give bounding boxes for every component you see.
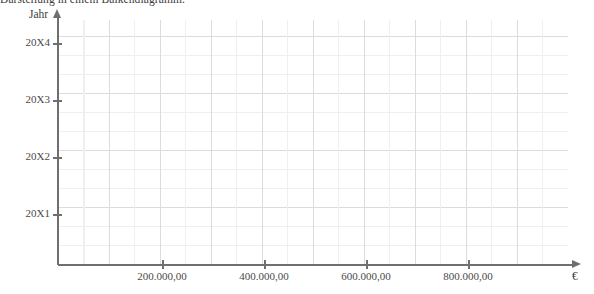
y-axis-tick [53, 214, 62, 216]
x-axis-tick [366, 260, 368, 269]
x-axis-tick [468, 260, 470, 269]
x-axis-tick-label: 200.000,00 [137, 270, 187, 282]
y-axis-tick-label: 20X2 [14, 150, 50, 162]
x-axis-tick [264, 260, 266, 269]
bar-chart: Jahr € 20X4 20X3 20X2 20X1 200.000,00 40… [0, 0, 594, 294]
plot-area-grid [58, 20, 568, 265]
x-axis-tick-label: 800.000,00 [443, 270, 493, 282]
y-axis-tick-label: 20X1 [14, 207, 50, 219]
x-axis-arrow-icon [572, 260, 581, 268]
x-axis-title: € [572, 270, 578, 282]
y-axis-tick [53, 100, 62, 102]
x-axis-line [58, 264, 574, 266]
x-axis-tick [162, 260, 164, 269]
y-axis-line [57, 18, 59, 265]
y-axis-tick [53, 43, 62, 45]
y-axis-arrow-icon [53, 9, 61, 18]
y-axis-tick [53, 157, 62, 159]
y-axis-tick-label: 20X3 [14, 93, 50, 105]
y-axis-title: Jahr [29, 8, 48, 20]
y-axis-tick-label: 20X4 [14, 36, 50, 48]
x-axis-tick-label: 600.000,00 [341, 270, 391, 282]
x-axis-tick-label: 400.000,00 [239, 270, 289, 282]
